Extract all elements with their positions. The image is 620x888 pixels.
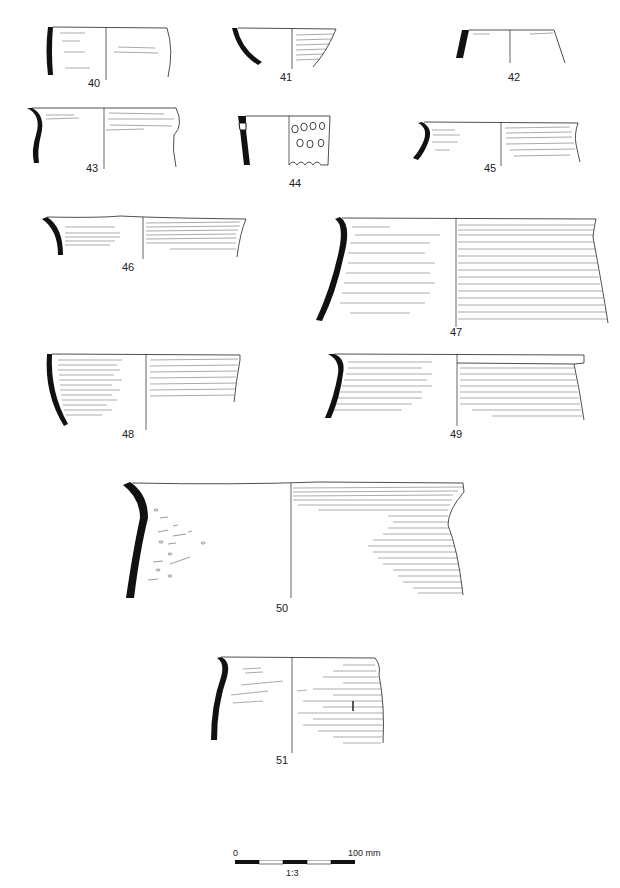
figure-number: 46 <box>122 261 134 273</box>
sherd-51-drawing <box>203 655 393 765</box>
sherd-41: 41 <box>228 25 368 80</box>
sherd-45: 45 <box>410 120 580 170</box>
sherd-49-drawing <box>322 352 592 432</box>
sherd-51: 51 <box>203 655 393 765</box>
sherd-46-drawing <box>40 215 250 265</box>
figure-number: 43 <box>86 162 98 174</box>
sherd-47: 47 <box>310 215 610 335</box>
sherd-40-drawing <box>40 25 180 85</box>
sherd-50: 50 <box>118 480 468 610</box>
scale-start-label: 0 <box>233 848 238 858</box>
figure-number: 42 <box>508 71 520 83</box>
scale-bar: 0 100 mm 1:3 <box>233 848 383 888</box>
figure-number: 50 <box>276 602 288 614</box>
figure-number: 47 <box>450 326 462 338</box>
figure-number: 40 <box>88 77 100 89</box>
rim-hatch <box>293 487 463 593</box>
figure-number: 51 <box>276 754 288 766</box>
sherd-48: 48 <box>42 352 252 432</box>
scale-ratio: 1:3 <box>286 868 299 878</box>
figure-number: 48 <box>122 428 134 440</box>
sherd-42-drawing <box>455 25 575 75</box>
sherd-41-drawing <box>228 25 368 80</box>
sherd-49: 49 <box>322 352 592 432</box>
sherd-43: 43 <box>24 105 184 170</box>
rim-hatch <box>297 665 383 743</box>
sherd-50-drawing <box>118 480 468 610</box>
sherd-43-drawing <box>24 105 184 170</box>
sherd-44-drawing <box>235 113 335 183</box>
sherd-44: 44 <box>235 113 335 183</box>
sherd-48-drawing <box>42 352 252 432</box>
rim-hatch <box>458 225 607 319</box>
sherd-40: 40 <box>40 25 180 85</box>
figure-number: 41 <box>280 71 292 83</box>
scale-bar-segments <box>235 860 360 866</box>
sherd-47-drawing <box>310 215 610 335</box>
sherd-42: 42 <box>455 25 575 75</box>
figure-number: 44 <box>289 177 301 189</box>
impressed-dots <box>292 122 325 148</box>
scale-end-label: 100 mm <box>348 848 381 858</box>
sherd-46: 46 <box>40 215 250 265</box>
figure-number: 49 <box>450 428 462 440</box>
figure-number: 45 <box>484 162 496 174</box>
inclusions <box>148 509 205 580</box>
